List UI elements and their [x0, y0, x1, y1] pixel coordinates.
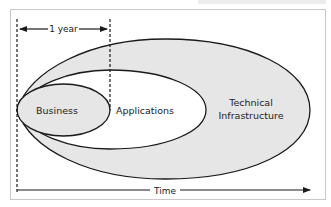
one-year-label: 1 year — [49, 24, 78, 34]
time-label: Time — [153, 186, 176, 196]
business-label: Business — [36, 105, 78, 116]
applications-label: Applications — [116, 105, 174, 116]
technical-label-line2: Infrastructure — [218, 110, 283, 121]
nested-ellipses-diagram: 1 year Time Business Applications Techni… — [0, 0, 331, 207]
technical-label-line1: Technical — [228, 97, 273, 108]
